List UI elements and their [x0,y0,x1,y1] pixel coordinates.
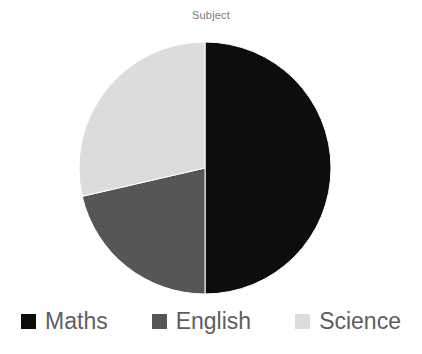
square-marker-icon [295,314,310,329]
legend-item-science[interactable]: Science [295,308,401,334]
legend-item-maths[interactable]: Maths [21,308,108,334]
chart-title: Subject [0,8,422,22]
plot-area [0,26,422,302]
pie-svg [0,26,422,302]
legend-label-science: Science [319,308,401,334]
pie-slice-group [79,42,331,294]
chart-legend: Maths English Science [0,300,422,342]
legend-item-english[interactable]: English [152,308,251,334]
legend-label-english: English [176,308,251,334]
legend-label-maths: Maths [45,308,108,334]
pie-slice-maths[interactable] [205,42,331,294]
square-marker-icon [21,314,36,329]
square-marker-icon [152,314,167,329]
pie-chart-container: Subject Maths English Science [0,0,422,354]
